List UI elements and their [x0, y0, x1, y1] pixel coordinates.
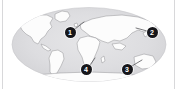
- world-map-graphic: [0, 0, 177, 89]
- map-marker-1[interactable]: 1: [65, 27, 76, 38]
- map-stage[interactable]: 1 2 3 4: [0, 0, 177, 89]
- land-british-isles: [74, 23, 78, 27]
- land-new-zealand: [160, 64, 164, 70]
- world-map-widget: 1 2 3 4: [0, 0, 177, 89]
- map-marker-3[interactable]: 3: [122, 64, 133, 75]
- map-marker-2[interactable]: 2: [147, 27, 158, 38]
- map-marker-4[interactable]: 4: [81, 64, 92, 75]
